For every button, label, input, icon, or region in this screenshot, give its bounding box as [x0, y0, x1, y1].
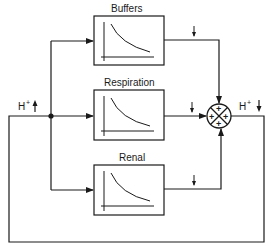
svg-text:H: H: [18, 101, 25, 112]
down-arrow-icon: [192, 175, 196, 186]
svg-text:Respiration: Respiration: [104, 77, 155, 88]
svg-text:+: +: [216, 104, 221, 114]
svg-text:+: +: [247, 99, 251, 106]
down-arrow-icon: [190, 102, 194, 113]
svg-text:+: +: [223, 112, 228, 122]
up-arrow-icon: [33, 100, 38, 112]
svg-text:Buffers: Buffers: [111, 3, 143, 14]
input-branches: [51, 41, 93, 190]
input-label: H +: [18, 99, 38, 112]
branch-junction-dot: [48, 113, 53, 118]
down-arrow-icon: [257, 100, 262, 112]
block-respiration: Respiration: [94, 77, 164, 140]
svg-text:+: +: [209, 112, 214, 122]
diagram-svg: H + Buffers Respiration Renal: [0, 0, 272, 248]
svg-text:+: +: [26, 99, 30, 106]
summing-junction: + + + +: [207, 104, 231, 129]
svg-text:+: +: [216, 119, 221, 129]
block-buffers: Buffers: [94, 3, 164, 65]
output-label: H +: [239, 99, 262, 112]
block-renal: Renal: [94, 152, 164, 215]
svg-text:Renal: Renal: [119, 152, 145, 163]
diagram-canvas: H + Buffers Respiration Renal: [0, 0, 272, 248]
svg-text:H: H: [239, 101, 246, 112]
down-arrow-icon: [192, 26, 196, 37]
